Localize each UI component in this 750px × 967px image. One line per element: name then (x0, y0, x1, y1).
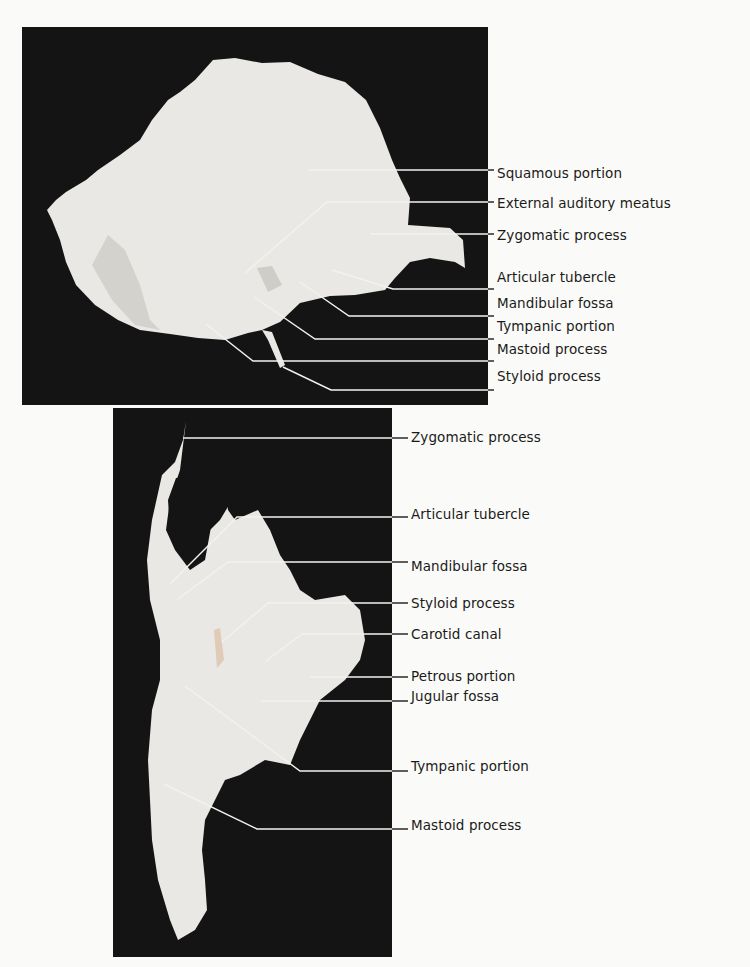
label-tympanic-portion-2: Tympanic portion (411, 758, 529, 774)
label-squamous-portion: Squamous portion (497, 165, 622, 181)
photo-temporal-bone-inferior (113, 408, 392, 957)
label-external-auditory-meatus: External auditory meatus (497, 195, 671, 211)
label-carotid-canal: Carotid canal (411, 626, 502, 642)
label-jugular-fossa: Jugular fossa (411, 688, 499, 704)
photo-temporal-bone-lateral (22, 27, 488, 405)
label-tympanic-portion: Tympanic portion (497, 318, 615, 334)
label-mandibular-fossa: Mandibular fossa (497, 295, 614, 311)
label-zygomatic-process-2: Zygomatic process (411, 429, 541, 445)
label-styloid-process-2: Styloid process (411, 595, 515, 611)
label-petrous-portion: Petrous portion (411, 668, 515, 684)
label-articular-tubercle: Articular tubercle (497, 269, 616, 285)
label-mastoid-process-2: Mastoid process (411, 817, 522, 833)
label-mastoid-process: Mastoid process (497, 341, 608, 357)
label-zygomatic-process: Zygomatic process (497, 227, 627, 243)
label-mandibular-fossa-2: Mandibular fossa (411, 558, 528, 574)
label-styloid-process: Styloid process (497, 368, 601, 384)
label-articular-tubercle-2: Articular tubercle (411, 506, 530, 522)
